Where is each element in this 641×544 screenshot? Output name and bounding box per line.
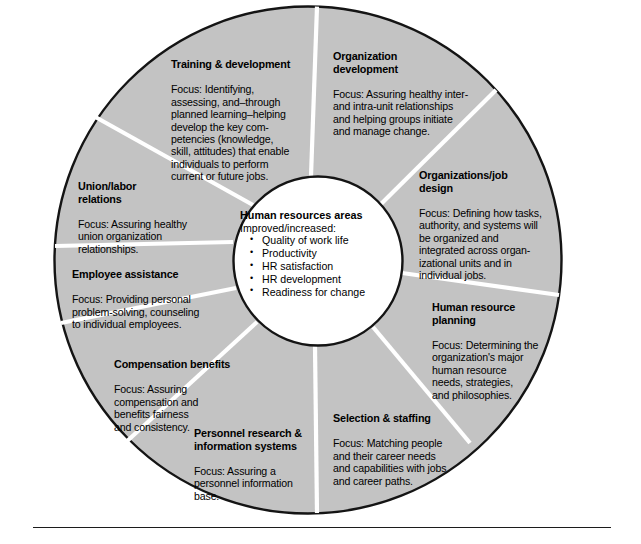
- segment-title: Human resource planning: [432, 301, 584, 326]
- segment-human-resource-planning: Human resource planning Focus: Determini…: [432, 289, 584, 413]
- segment-title: Organization development: [333, 50, 515, 75]
- segment-title: Compensation benefits: [114, 358, 284, 371]
- center-title: Human resources areas: [240, 209, 398, 222]
- list-item: HR satisfaction: [250, 260, 398, 273]
- segment-title: Employee assistance: [72, 268, 252, 281]
- segment-organization-development: Organization development Focus: Assuring…: [333, 38, 515, 150]
- center-hub-text: Human resources areas Improved/increased…: [240, 209, 398, 299]
- diagram-page: Training & development Focus: Identifyin…: [0, 0, 641, 544]
- segment-title: Organizations/job design: [419, 169, 585, 194]
- segment-organizations-job-design: Organizations/job design Focus: Defining…: [419, 157, 585, 294]
- segment-body: Focus: Assuring a personnel information …: [194, 465, 362, 502]
- segment-employee-assistance: Employee assistance Focus: Providing per…: [72, 256, 252, 343]
- list-item: Quality of work life: [250, 234, 398, 247]
- segment-union-labor-relations: Union/labor relations Focus: Assuring he…: [78, 168, 246, 268]
- segment-compensation-benefits: Compensation benefits Focus: Assuring co…: [114, 346, 284, 445]
- segment-title: Training & development: [171, 58, 351, 71]
- segment-body: Focus: Assuring compensation and benefit…: [114, 383, 284, 433]
- segment-body: Focus: Defining how tasks, authority, an…: [419, 207, 585, 281]
- segment-body: Focus: Assuring healthy inter- and intra…: [333, 88, 515, 138]
- segment-title: Union/labor relations: [78, 180, 246, 205]
- list-item: Readiness for change: [250, 286, 398, 299]
- segment-body: Focus: Assuring healthy union organizati…: [78, 218, 246, 255]
- list-item: Productivity: [250, 247, 398, 260]
- center-subtitle: Improved/increased:: [240, 222, 398, 235]
- center-bullet-list: Quality of work life Productivity HR sat…: [240, 234, 398, 299]
- segment-body: Focus: Providing personal problem-solvin…: [72, 293, 252, 330]
- list-item: HR development: [250, 273, 398, 286]
- segment-body: Focus: Determining the organization's ma…: [432, 339, 584, 401]
- bottom-horizontal-rule: [33, 527, 611, 528]
